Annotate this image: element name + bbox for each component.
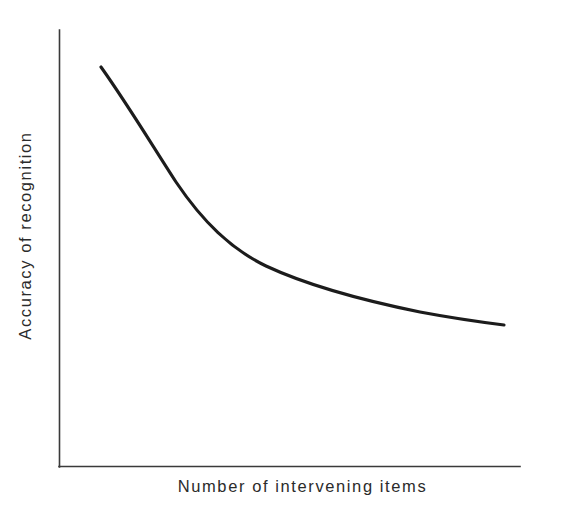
chart-figure: Accuracy of recognition Number of interv… [0,0,587,522]
x-axis-label: Number of intervening items [0,477,587,496]
y-axis-label-container: Accuracy of recognition [0,0,50,470]
figure-background [0,0,587,522]
y-axis-label: Accuracy of recognition [16,131,35,339]
plot-area [0,0,587,522]
